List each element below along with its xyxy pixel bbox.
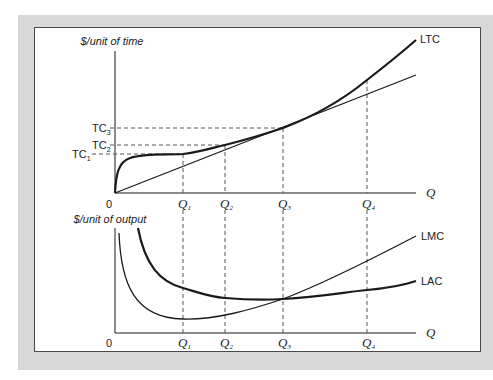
top-q2-label: Q2 — [220, 196, 233, 212]
bottom-chart: $/unit of output Q 0 LMC LAC Q1 Q2 Q3 Q4 — [73, 210, 445, 351]
bottom-y-axis-label: $/unit of output — [73, 213, 148, 225]
bottom-q4-label: Q4 — [362, 335, 375, 351]
bottom-q3-label: Q3 — [278, 335, 291, 351]
bottom-guides — [183, 210, 367, 333]
lmc-label: LMC — [421, 230, 444, 242]
top-q3-label: Q3 — [278, 196, 291, 212]
lac-curve — [138, 228, 416, 300]
top-x-axis-label: Q — [426, 185, 436, 200]
tc2-label: TC2 — [92, 139, 111, 153]
tc3-label: TC3 — [92, 122, 111, 136]
bottom-x-axis-label: Q — [426, 325, 436, 340]
top-chart: $/unit of time Q 0 LTC TC1 TC2 TC3 Q1 Q2… — [72, 33, 440, 212]
top-q1-label: Q1 — [178, 196, 191, 212]
top-origin-label: 0 — [106, 198, 112, 210]
bottom-q2-label: Q2 — [220, 335, 233, 351]
ltc-label: LTC — [420, 33, 440, 45]
top-q4-label: Q4 — [362, 196, 375, 212]
bottom-origin-label: 0 — [106, 337, 112, 349]
lac-label: LAC — [421, 275, 442, 287]
top-y-axis-label: $/unit of time — [80, 35, 144, 47]
cost-curves-diagram: $/unit of time Q 0 LTC TC1 TC2 TC3 Q1 Q2… — [0, 0, 493, 380]
tc1-label: TC1 — [72, 148, 91, 162]
top-guides — [92, 80, 367, 193]
bottom-q1-label: Q1 — [178, 335, 191, 351]
ltc-curve — [115, 40, 416, 193]
lmc-curve — [119, 233, 416, 319]
